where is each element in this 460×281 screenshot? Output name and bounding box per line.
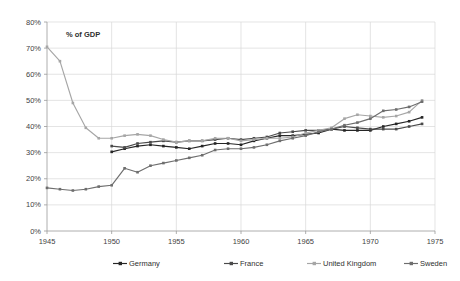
series-data-point [136, 142, 139, 145]
series-data-point [382, 125, 385, 128]
series-data-point [162, 162, 165, 165]
series-data-point [304, 134, 307, 137]
series-data-point [110, 145, 113, 148]
x-tick-label: 1970 [362, 237, 379, 246]
axis-note-label: % of GDP [66, 30, 100, 39]
series-data-point [382, 116, 385, 119]
series-data-point [343, 124, 346, 127]
series-germany [110, 116, 423, 153]
series-data-point [330, 128, 333, 131]
y-tick-label: 0% [30, 227, 41, 236]
legend-label-france: France [240, 259, 263, 268]
series-data-point [59, 188, 62, 191]
series-data-point [149, 164, 152, 167]
gridlines [47, 22, 435, 231]
series-data-point [304, 129, 307, 132]
y-tick-label: 10% [26, 200, 41, 209]
legend-marker-1 [230, 262, 233, 265]
series-data-point [214, 149, 217, 152]
series-sweden [46, 100, 424, 191]
legend-marker-3 [410, 262, 413, 265]
legend-marker-0 [119, 262, 122, 265]
series-data-point [123, 146, 126, 149]
chart-legend: GermanyFranceUnited KingdomSweden [113, 259, 447, 268]
y-tick-label: 80% [26, 18, 41, 27]
x-tick-label: 1965 [297, 237, 314, 246]
series-group [46, 46, 424, 192]
series-data-point [291, 130, 294, 133]
series-data-point [72, 102, 75, 105]
series-data-point [304, 132, 307, 135]
series-data-point [395, 123, 398, 126]
series-line [47, 102, 422, 191]
series-data-point [253, 138, 256, 141]
series-data-point [214, 142, 217, 145]
series-data-point [149, 143, 152, 146]
series-data-point [175, 146, 178, 149]
series-data-point [317, 130, 320, 133]
series-data-point [395, 115, 398, 118]
x-tick-label: 1975 [427, 237, 444, 246]
series-data-point [421, 116, 424, 119]
x-tick-label: 1960 [233, 237, 250, 246]
series-data-point [72, 189, 75, 192]
series-data-point [175, 159, 178, 162]
series-data-point [266, 143, 269, 146]
legend-marker-2 [313, 262, 316, 265]
series-data-point [382, 110, 385, 113]
series-data-point [149, 134, 152, 137]
legend-label-sweden: Sweden [420, 259, 447, 268]
series-data-point [279, 137, 282, 140]
series-data-point [421, 123, 424, 126]
series-data-point [356, 113, 359, 116]
legend-label-united-kingdom: United Kingdom [323, 259, 376, 268]
series-data-point [395, 108, 398, 111]
series-data-point [227, 142, 230, 145]
series-data-point [408, 111, 411, 114]
series-data-point [59, 60, 62, 63]
series-data-point [188, 147, 191, 150]
line-chart: 0%10%20%30%40%50%60%70%80%19451950195519… [0, 0, 460, 281]
y-axis-labels: 0%10%20%30%40%50%60%70%80% [26, 18, 47, 236]
series-data-point [123, 134, 126, 137]
legend-label-germany: Germany [129, 259, 160, 268]
series-data-point [253, 146, 256, 149]
series-data-point [266, 137, 269, 140]
series-data-point [382, 128, 385, 131]
series-data-point [369, 115, 372, 118]
series-data-point [123, 167, 126, 170]
y-tick-label: 20% [26, 174, 41, 183]
series-data-point [408, 106, 411, 109]
y-tick-label: 30% [26, 148, 41, 157]
series-data-point [149, 141, 152, 144]
series-data-point [136, 171, 139, 174]
series-data-point [136, 133, 139, 136]
series-data-point [343, 117, 346, 120]
y-tick-label: 70% [26, 44, 41, 53]
series-data-point [110, 151, 113, 154]
x-tick-label: 1950 [103, 237, 120, 246]
series-data-point [240, 143, 243, 146]
series-data-point [214, 137, 217, 140]
series-line [112, 117, 422, 151]
series-data-point [408, 125, 411, 128]
series-data-point [110, 184, 113, 187]
y-tick-label: 60% [26, 70, 41, 79]
series-data-point [201, 145, 204, 148]
series-data-point [201, 140, 204, 143]
series-data-point [162, 138, 165, 141]
y-tick-label: 40% [26, 122, 41, 131]
series-data-point [240, 147, 243, 150]
series-data-point [188, 157, 191, 160]
series-data-point [97, 185, 100, 188]
series-data-point [136, 145, 139, 148]
series-data-point [85, 188, 88, 191]
series-data-point [343, 129, 346, 132]
series-data-point [227, 147, 230, 150]
series-data-point [369, 128, 372, 131]
series-data-point [279, 134, 282, 137]
series-data-point [356, 127, 359, 130]
series-data-point [162, 145, 165, 148]
series-data-point [356, 129, 359, 132]
chart-container: 0%10%20%30%40%50%60%70%80%19451950195519… [0, 0, 460, 281]
